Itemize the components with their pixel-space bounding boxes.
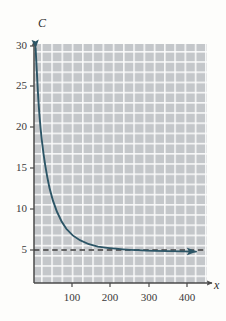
y-tick-label-10: 10 [4,202,27,214]
x-tick-label-400: 400 [170,291,204,303]
y-tick-label-15: 15 [4,161,27,173]
grid-background [34,44,207,283]
x-axis-label: x [214,278,219,293]
x-tick-label-100: 100 [55,291,89,303]
y-tick-label-30: 30 [4,39,27,51]
y-tick-label-5: 5 [4,243,27,255]
plot-area [0,0,226,321]
x-tick-label-200: 200 [93,291,127,303]
y-axis-label: C [38,16,46,31]
y-tick-label-20: 20 [4,120,27,132]
y-tick-label-25: 25 [4,79,27,91]
chart-figure: 30 25 20 15 10 5 100 200 300 400 C x [0,0,226,321]
x-tick-label-300: 300 [132,291,166,303]
